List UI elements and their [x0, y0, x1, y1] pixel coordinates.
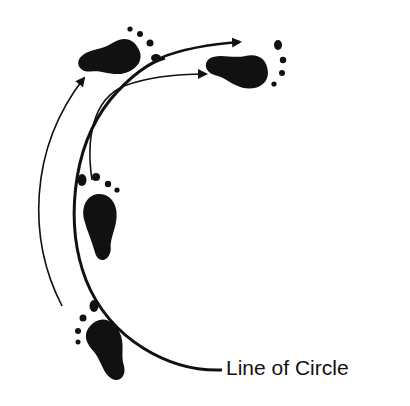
arrow-from-middle-foot: [90, 74, 206, 180]
footwork-diagram: Line of Circle: [0, 0, 410, 406]
arrow-top-curve: [160, 42, 240, 58]
toe-dots-top-right: [271, 40, 286, 87]
arrow-outer-left: [39, 78, 84, 306]
footprint-top-right: [204, 51, 269, 90]
line-of-circle-label: Line of Circle: [226, 356, 349, 380]
toe-dots-middle-left: [78, 173, 120, 193]
footprint-bottom-left: [81, 314, 138, 385]
footprint-middle-left: [82, 193, 121, 262]
diagram-graphic: [0, 0, 410, 406]
